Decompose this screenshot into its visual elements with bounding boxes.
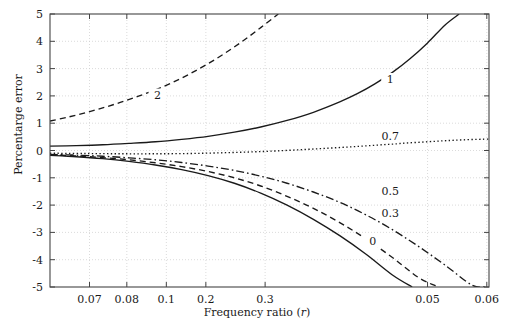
x-tick-label: 0.05 [415,293,440,306]
curve-label-0.5: 0.5 [381,185,399,198]
y-axis-label: Percentarge error [12,55,25,195]
curve-label-0.7: 0.7 [381,130,399,143]
y-tick-label: -4 [32,254,43,267]
curve-label-1: 1 [387,73,394,86]
curve-label-0: 0 [369,235,376,248]
gridlines [50,14,489,287]
curve-0.5 [50,154,485,287]
curve-0.7 [50,139,489,154]
x-axis-label-close: ) [306,306,310,319]
x-axis-label: Frequency ratio (r) [0,306,514,319]
curve-label-2: 2 [154,89,161,102]
x-tick-label: 0.1 [158,293,176,306]
curve-label-0.3: 0.3 [381,207,399,220]
y-tick-label: -5 [32,281,43,294]
y-tick-label: 2 [36,90,43,103]
percentage-error-plot: 543210-1-2-3-4-50.070.080.10.20.30.050.0… [0,0,514,331]
y-tick-label: 0 [36,145,43,158]
x-axis-label-text: Frequency ratio ( [204,306,301,319]
x-tick-label: 0.3 [256,293,274,306]
x-tick-label: 0.2 [197,293,215,306]
y-tick-label: -1 [32,172,43,185]
curve-2 [50,14,278,121]
chart-figure: 543210-1-2-3-4-50.070.080.10.20.30.050.0… [0,0,514,331]
curve-labels: 210.70.50.30 [149,73,400,248]
x-tick-label: 0.06 [475,293,500,306]
y-tick-label: 3 [36,63,43,76]
y-tick-label: 4 [36,35,43,48]
y-tick-label: -3 [32,226,43,239]
y-tick-label: 5 [36,8,43,21]
curve-0 [50,155,412,287]
y-tick-label: -2 [32,199,43,212]
x-tick-label: 0.08 [115,293,140,306]
y-tick-label: 1 [36,117,43,130]
x-tick-label: 0.07 [77,293,102,306]
curve-0.3 [50,155,439,287]
